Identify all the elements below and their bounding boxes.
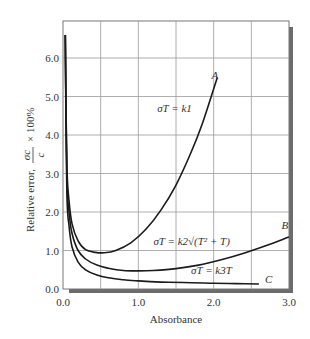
annotation: σT = k1 — [157, 102, 192, 114]
y-axis-ticks: 0.01.02.03.04.05.06.0 — [45, 52, 59, 295]
svg-text:1.0: 1.0 — [131, 296, 145, 308]
annotation: σT = k3T — [191, 264, 233, 276]
svg-text:Relative error,: Relative error, — [24, 169, 36, 232]
svg-text:4.0: 4.0 — [45, 129, 59, 141]
annotation: σT = k2√(T² + T) — [153, 235, 230, 248]
svg-text:2.0: 2.0 — [45, 206, 59, 218]
x-axis-label: Absorbance — [150, 313, 203, 325]
x-axis-ticks: 0.01.02.03.0 — [56, 296, 296, 308]
chart: 0.01.02.03.04.05.06.0 0.01.02.03.0 AσT =… — [0, 0, 310, 339]
svg-text:0.0: 0.0 — [45, 283, 59, 295]
annotation: B — [281, 219, 288, 231]
svg-text:5.0: 5.0 — [45, 91, 59, 103]
annotation: A — [210, 69, 218, 81]
svg-text:c: c — [34, 152, 46, 157]
svg-text:σc: σc — [20, 150, 32, 160]
svg-text:6.0: 6.0 — [45, 52, 59, 64]
svg-text:2.0: 2.0 — [207, 296, 221, 308]
svg-text:3.0: 3.0 — [45, 168, 59, 180]
annotation: C — [265, 273, 273, 285]
svg-text:× 100%: × 100% — [24, 107, 36, 142]
svg-text:3.0: 3.0 — [282, 296, 296, 308]
y-axis-label: Relative error, σc c × 100% — [20, 107, 46, 232]
svg-text:1.0: 1.0 — [45, 245, 59, 257]
svg-text:0.0: 0.0 — [56, 296, 70, 308]
